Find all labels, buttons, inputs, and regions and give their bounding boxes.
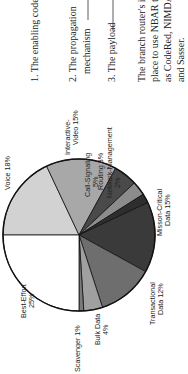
- document-page: Voice 18%Interactive-Video 15%Call-Signa…: [0, 0, 188, 374]
- item-1-text: 1. The enabling code: [29, 0, 40, 82]
- item-3-text: 3. The payload: [106, 22, 117, 82]
- pie-label-scavenger: Scavenger 1%: [73, 325, 82, 372]
- pie-label-transactional-data: TransactionalData 12%: [148, 282, 165, 325]
- item-2-text-line2: mechanism: [81, 28, 92, 74]
- pie-label-mission-critical-data: Misson-CriticalData 15%: [155, 188, 172, 236]
- pie-label-routing: Routing 3%: [96, 152, 105, 190]
- pie-label-network-management: Network-Management2%: [105, 127, 122, 198]
- paragraph-line-1: The branch router's in: [136, 0, 147, 82]
- pie-label-voice: Voice 18%: [3, 155, 12, 190]
- paragraph-line-4: and Sasser.: [175, 38, 186, 82]
- item-2-text: 2. The propagation: [67, 6, 78, 82]
- paragraph-line-3: as CodeRed, NIMDA,: [162, 0, 173, 82]
- pie-label-interactive-video: Interactive-Video 15%: [63, 110, 80, 155]
- paragraph-line-2: place to use NBAR to: [149, 0, 160, 82]
- pie-slice-best-effort: [3, 235, 79, 311]
- text-block: 1. The enabling code 2. The propagation …: [29, 0, 186, 82]
- pie-label-bulk-data: Bulk Data4%: [93, 314, 110, 345]
